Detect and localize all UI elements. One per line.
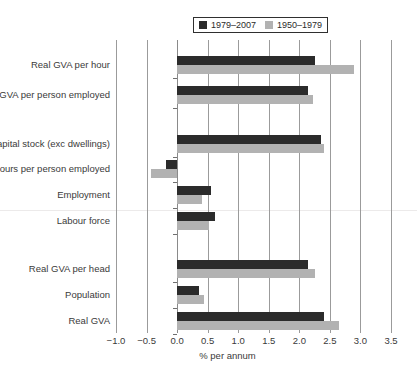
x-tick-label: 1.5: [262, 336, 275, 346]
gridline-neg0-5: [147, 40, 148, 333]
x-axis-title-text: % per annum: [199, 350, 256, 361]
bar: [177, 56, 315, 65]
bar: [177, 186, 211, 195]
gridline-1neg5: [269, 40, 270, 333]
bar: [177, 221, 209, 230]
legend-swatch-dark: [199, 21, 207, 29]
bar: [177, 286, 199, 295]
chart-legend: 1979–2007 1950–1979: [193, 17, 328, 33]
bar: [177, 295, 204, 304]
y-axis-tick: [173, 282, 177, 283]
y-axis-label: Real GVA: [68, 316, 110, 326]
legend-swatch-light: [265, 21, 273, 29]
y-axis-tick: [173, 308, 177, 309]
bar: [177, 135, 321, 144]
gridline-3neg5: [391, 40, 392, 333]
legend-entry-1950-1979: 1950–1979: [265, 21, 322, 30]
bar: [177, 95, 313, 104]
y-axis-label: Real GVA per hour: [31, 60, 110, 70]
gridline-3: [360, 40, 361, 333]
x-tick-label: 2.5: [323, 336, 336, 346]
bar: [177, 269, 315, 278]
x-axis-title: % per annum: [0, 350, 417, 361]
gridline-2neg5: [330, 40, 331, 333]
y-axis-label: Employment: [57, 190, 110, 200]
y-axis-tick: [173, 108, 177, 109]
x-tick-label: 1.0: [232, 336, 245, 346]
x-tick-label: −1.0: [107, 336, 126, 346]
bar: [151, 169, 177, 178]
legend-label-1979-2007: 1979–2007: [211, 21, 256, 30]
bar: [177, 195, 202, 204]
bar: [177, 65, 354, 74]
y-axis-label: Real GVA per person employed: [0, 90, 110, 100]
x-tick-label: 0.0: [171, 336, 184, 346]
bar: [166, 160, 177, 169]
bar: [177, 312, 324, 321]
bar: [177, 144, 324, 153]
gridline-1: [238, 40, 239, 333]
x-tick-label: 3.5: [384, 336, 397, 346]
y-axis-label: Population: [65, 290, 110, 300]
x-tick-label: 0.5: [201, 336, 214, 346]
gridline-2: [299, 40, 300, 333]
chart-figure: 1979–2007 1950–1979 Real GVA per hourRea…: [0, 0, 417, 383]
y-axis-tick: [173, 234, 177, 235]
bar: [177, 212, 215, 221]
y-axis-label: Labour force: [57, 216, 110, 226]
bar: [177, 260, 308, 269]
y-axis-tick: [173, 157, 177, 158]
x-axis-tick-labels: −1.0−0.50.00.51.01.52.02.53.03.5: [0, 336, 417, 350]
bar: [177, 86, 308, 95]
legend-label-1950-1979: 1950–1979: [277, 21, 322, 30]
y-axis-label: Hours per person employed: [0, 164, 110, 174]
plot-area: [116, 40, 391, 333]
x-tick-label: 3.0: [354, 336, 367, 346]
x-tick-label: 2.0: [293, 336, 306, 346]
legend-entry-1979-2007: 1979–2007: [199, 21, 256, 30]
gridline-neg1: [116, 40, 117, 333]
y-axis-tick: [173, 208, 177, 209]
y-axis-label: Real GVA per head: [29, 264, 110, 274]
x-tick-label: −0.5: [137, 336, 156, 346]
y-axis-label: Capital stock (exc dwellings): [0, 139, 110, 149]
y-axis-tick: [173, 182, 177, 183]
y-axis-tick: [173, 78, 177, 79]
bar: [177, 321, 339, 330]
y-axis-category-labels: Real GVA per hourReal GVA per person emp…: [0, 40, 113, 333]
